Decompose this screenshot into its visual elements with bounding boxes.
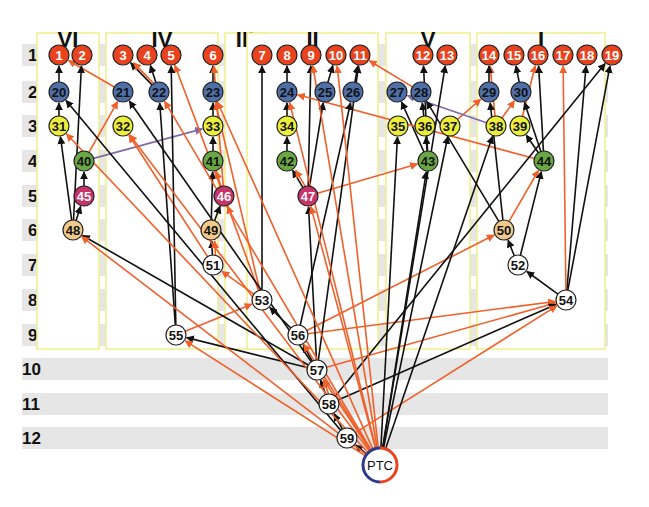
node-label: 54 (559, 293, 574, 308)
node-26[interactable]: 26 (343, 82, 363, 102)
node-label: 14 (482, 48, 497, 63)
node-48[interactable]: 48 (63, 220, 83, 240)
node-label: 50 (497, 223, 511, 238)
node-19[interactable]: 19 (602, 45, 622, 65)
node-label: 17 (556, 48, 570, 63)
node-51[interactable]: 51 (203, 255, 223, 275)
node-36[interactable]: 36 (415, 116, 435, 136)
node-50[interactable]: 50 (494, 220, 514, 240)
node-38[interactable]: 38 (486, 116, 506, 136)
row-label: 9 (28, 326, 37, 345)
node-33[interactable]: 33 (203, 116, 223, 136)
node-41[interactable]: 41 (203, 151, 223, 171)
node-17[interactable]: 17 (553, 45, 573, 65)
node-12[interactable]: 12 (413, 45, 433, 65)
node-44[interactable]: 44 (534, 151, 554, 171)
node-43[interactable]: 43 (418, 151, 438, 171)
node-11[interactable]: 11 (350, 45, 370, 65)
node-5[interactable]: 5 (161, 45, 181, 65)
node-55[interactable]: 55 (166, 325, 186, 345)
node-14[interactable]: 14 (479, 45, 499, 65)
node-4[interactable]: 4 (137, 45, 157, 65)
node-21[interactable]: 21 (113, 82, 133, 102)
node-39[interactable]: 39 (510, 116, 530, 136)
node-label: 45 (77, 189, 91, 204)
node-3[interactable]: 3 (113, 45, 133, 65)
ptc-label: PTC (367, 458, 393, 473)
row-band (22, 427, 608, 449)
node-53[interactable]: 53 (252, 290, 272, 310)
node-label: 47 (301, 189, 315, 204)
node-label: 2 (78, 48, 85, 63)
node-31[interactable]: 31 (49, 116, 69, 136)
group-box-IV (106, 33, 218, 349)
node-20[interactable]: 20 (49, 82, 69, 102)
row-label: 8 (28, 291, 37, 310)
node-label: 37 (443, 119, 457, 134)
node-25[interactable]: 25 (315, 82, 335, 102)
node-label: 56 (291, 328, 305, 343)
node-49[interactable]: 49 (201, 220, 221, 240)
node-label: 3 (119, 48, 126, 63)
node-30[interactable]: 30 (511, 82, 531, 102)
node-52[interactable]: 52 (508, 255, 528, 275)
node-16[interactable]: 16 (528, 45, 548, 65)
node-label: 13 (440, 48, 454, 63)
node-29[interactable]: 29 (479, 82, 499, 102)
node-label: 26 (346, 85, 360, 100)
node-1[interactable]: 1 (49, 45, 69, 65)
node-label: 49 (204, 223, 218, 238)
node-42[interactable]: 42 (277, 151, 297, 171)
node-32[interactable]: 32 (113, 116, 133, 136)
node-9[interactable]: 9 (301, 45, 321, 65)
node-37[interactable]: 37 (440, 116, 460, 136)
node-8[interactable]: 8 (277, 45, 297, 65)
node-47[interactable]: 47 (298, 186, 318, 206)
node-label: 12 (416, 48, 430, 63)
node-label: 24 (280, 85, 295, 100)
node-label: 48 (66, 223, 80, 238)
node-23[interactable]: 23 (203, 82, 223, 102)
node-label: 33 (206, 119, 220, 134)
node-label: 51 (206, 258, 220, 273)
node-35[interactable]: 35 (388, 116, 408, 136)
node-59[interactable]: 59 (337, 428, 357, 448)
node-label: 19 (605, 48, 619, 63)
node-24[interactable]: 24 (277, 82, 297, 102)
node-label: 32 (116, 119, 130, 134)
node-label: 55 (169, 328, 183, 343)
diagram-canvas: 123456789101112 VIIVIIIIIVI 123456789101… (0, 0, 649, 507)
node-28[interactable]: 28 (411, 82, 431, 102)
node-label: 9 (307, 48, 314, 63)
node-10[interactable]: 10 (326, 45, 346, 65)
node-40[interactable]: 40 (74, 151, 94, 171)
node-label: 34 (280, 119, 295, 134)
node-label: 27 (390, 85, 404, 100)
node-13[interactable]: 13 (437, 45, 457, 65)
node-27[interactable]: 27 (387, 82, 407, 102)
node-2[interactable]: 2 (72, 45, 92, 65)
node-label: 39 (513, 119, 527, 134)
node-label: 31 (52, 119, 66, 134)
row-label: 7 (28, 256, 37, 275)
node-label: 59 (340, 431, 354, 446)
node-label: 11 (353, 48, 367, 63)
node-7[interactable]: 7 (252, 45, 272, 65)
node-54[interactable]: 54 (556, 290, 576, 310)
node-56[interactable]: 56 (288, 325, 308, 345)
node-57[interactable]: 57 (307, 360, 327, 380)
ptc-node[interactable]: PTC (363, 448, 397, 482)
node-18[interactable]: 18 (577, 45, 597, 65)
group-box-V (386, 33, 470, 349)
node-label: 52 (511, 258, 525, 273)
node-22[interactable]: 22 (149, 82, 169, 102)
node-6[interactable]: 6 (203, 45, 223, 65)
node-label: 57 (310, 363, 324, 378)
node-46[interactable]: 46 (214, 186, 234, 206)
node-34[interactable]: 34 (277, 116, 297, 136)
node-58[interactable]: 58 (319, 394, 339, 414)
node-45[interactable]: 45 (74, 186, 94, 206)
node-label: 42 (280, 154, 294, 169)
group-boxes: VIIVIIIIIVI (37, 27, 605, 349)
node-15[interactable]: 15 (504, 45, 524, 65)
